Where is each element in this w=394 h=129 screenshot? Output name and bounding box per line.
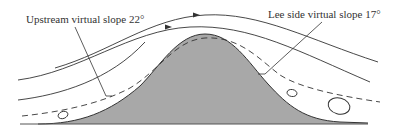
arrow-icon: [165, 25, 172, 30]
lee-slope-label: Lee side virtual slope 17°: [268, 9, 381, 20]
upstream-slope-label: Upstream virtual slope 22°: [26, 14, 144, 25]
eddy-lee-small: [286, 89, 297, 98]
eddy-lee-large: [326, 95, 351, 116]
lee-leader-line: [265, 22, 322, 74]
streamline-3: [18, 42, 145, 100]
arrow-icon: [193, 13, 200, 18]
diagram-canvas: Upstream virtual slope 22° Lee side virt…: [0, 0, 394, 129]
eddy-upstream: [57, 110, 69, 120]
hill-shape: [38, 34, 368, 124]
